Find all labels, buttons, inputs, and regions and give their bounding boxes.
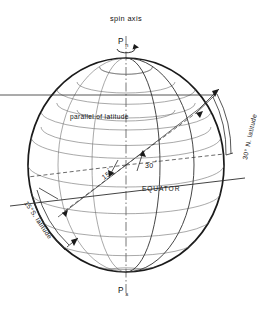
globe-diagram-svg: spin axis P n P s parallel of latitude E… bbox=[0, 0, 273, 309]
angle-north-degree-sign: ° bbox=[155, 159, 157, 165]
meridian-east-inner bbox=[126, 58, 160, 272]
latitude-diagram-figure: spin axis P n P s parallel of latitude E… bbox=[0, 0, 273, 309]
latitude-north-bracket-tick-bottom bbox=[226, 153, 233, 155]
parallel-of-latitude-label: parallel of latitude bbox=[70, 113, 129, 121]
south-pole-subscript: s bbox=[125, 291, 128, 297]
latitude-north-bracket-inner bbox=[213, 97, 226, 155]
latitude-north-label: 30° N. latitude bbox=[241, 113, 258, 160]
latitude-north-label-group: 30° N. latitude bbox=[241, 113, 258, 160]
spin-axis-label: spin axis bbox=[110, 14, 142, 23]
latitude-south-leader-top bbox=[39, 188, 58, 199]
angle-north-label: 30 bbox=[145, 162, 154, 169]
north-pole-label: P bbox=[118, 37, 124, 46]
meridian-west-inner bbox=[92, 58, 126, 272]
latitude-south-arrowhead-icon bbox=[71, 238, 78, 246]
latitude-north-leader bbox=[196, 96, 214, 113]
north-pole-subscript: n bbox=[125, 42, 128, 48]
rotation-arrowhead-icon bbox=[133, 44, 140, 50]
south-pole-label: P bbox=[118, 286, 124, 295]
latitude-north-bracket-outer bbox=[217, 94, 231, 154]
equator-label: EQUATOR bbox=[142, 185, 180, 193]
